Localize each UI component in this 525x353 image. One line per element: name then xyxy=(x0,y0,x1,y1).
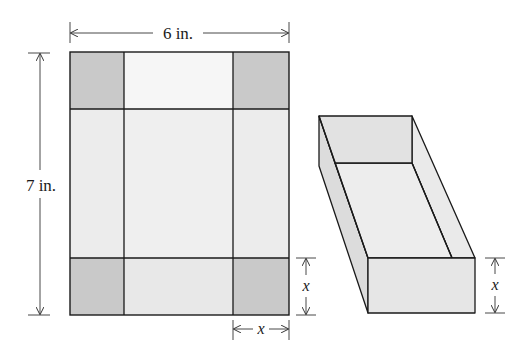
base-panel xyxy=(124,109,233,258)
right-flap-panel xyxy=(233,109,289,258)
height-label: 7 in. xyxy=(26,176,56,195)
corner-square-bottom-right xyxy=(233,258,289,315)
left-flap-panel xyxy=(70,109,124,258)
box-height-label: x xyxy=(490,276,498,293)
box-net-diagram: 6 in. 7 in. x x xyxy=(0,0,525,353)
bottom-flap-panel xyxy=(124,258,233,315)
corner-height-label: x xyxy=(301,277,309,294)
top-flap-panel xyxy=(124,52,233,109)
box-front-wall xyxy=(368,258,475,313)
flat-sheet-net xyxy=(70,52,289,315)
corner-width-label: x xyxy=(256,320,264,337)
corner-square-top-right xyxy=(233,52,289,109)
corner-square-top-left xyxy=(70,52,124,109)
open-box-drawing xyxy=(319,116,475,313)
corner-square-bottom-left xyxy=(70,258,124,315)
width-label: 6 in. xyxy=(163,24,193,43)
